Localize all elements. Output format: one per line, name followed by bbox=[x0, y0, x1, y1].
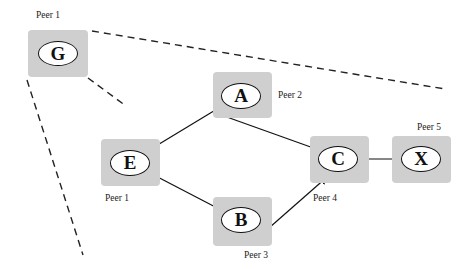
node-b: B bbox=[221, 207, 261, 233]
peer-label-e: Peer 1 bbox=[105, 193, 129, 203]
node-a: A bbox=[221, 83, 261, 109]
peer-label-x: Peer 5 bbox=[417, 122, 441, 132]
node-e: E bbox=[110, 150, 150, 176]
dashed-line-left bbox=[27, 80, 83, 255]
edge-a-to-c bbox=[224, 116, 319, 150]
peer-network-diagram: G Peer 1 A Peer 2 E Peer 1 B Peer 3 C Pe… bbox=[0, 0, 473, 271]
node-g: G bbox=[38, 41, 78, 66]
peer-label-c: Peer 4 bbox=[313, 193, 337, 203]
dashed-line-middle bbox=[88, 78, 126, 106]
peer-label-g: Peer 1 bbox=[36, 10, 60, 20]
peer-label-a: Peer 2 bbox=[278, 90, 302, 100]
peer-label-b: Peer 3 bbox=[244, 250, 268, 260]
node-c: C bbox=[318, 146, 358, 172]
node-x: X bbox=[401, 146, 441, 172]
